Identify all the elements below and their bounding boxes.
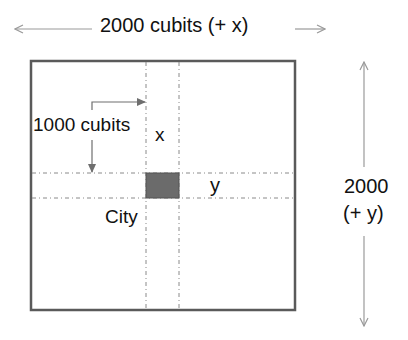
right-dimension-value: 2000 [344,175,389,198]
offset-connector-right [92,102,145,110]
right-dimension-axis: (+ y) [343,202,384,225]
x-label: x [155,124,165,146]
y-label: y [210,174,220,197]
city-label: City [105,206,138,228]
city-square [146,173,179,198]
diagram-canvas [0,0,408,340]
offset-label: 1000 cubits [33,114,130,136]
top-dimension-label: 2000 cubits (+ x) [100,14,248,37]
